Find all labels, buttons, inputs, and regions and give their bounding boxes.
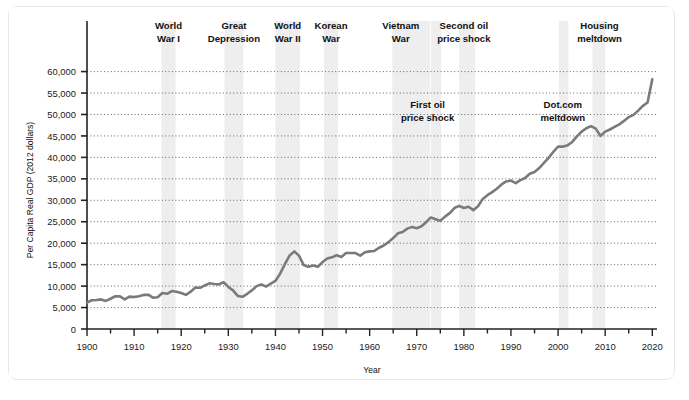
- y-tick-label: 15,000: [47, 259, 76, 270]
- recession-band: [431, 21, 441, 329]
- chart-frame: 05,00010,00015,00020,00025,00030,00035,0…: [8, 6, 675, 380]
- annotation-label: meltdown: [540, 112, 585, 123]
- annotation-label: Dot.com: [544, 99, 582, 110]
- y-tick-label: 20,000: [47, 238, 76, 249]
- recession-band: [392, 21, 430, 329]
- recession-band: [275, 21, 299, 329]
- x-tick-label: 1900: [77, 341, 98, 352]
- annotation-label: Vietnam: [382, 20, 419, 31]
- y-tick-label: 30,000: [47, 195, 76, 206]
- recession-band: [225, 21, 244, 329]
- annotation-label: War: [392, 33, 410, 44]
- y-tick-label: 25,000: [47, 216, 76, 227]
- annotation-label: World: [155, 20, 182, 31]
- x-axis-title: Year: [363, 365, 381, 375]
- y-tick-label: 40,000: [47, 152, 76, 163]
- annotation-label: War I: [157, 33, 180, 44]
- recession-band: [592, 21, 605, 329]
- x-tick-label: 1990: [501, 341, 522, 352]
- x-tick-label: 1920: [171, 341, 192, 352]
- y-tick-label: 0: [71, 324, 76, 335]
- annotation-label: Depression: [208, 33, 260, 44]
- y-tick-label: 35,000: [47, 173, 76, 184]
- annotation-label: price shock: [401, 112, 455, 123]
- x-tick-label: 2000: [548, 341, 569, 352]
- chart-background: [9, 7, 672, 377]
- y-tick-label: 55,000: [47, 88, 76, 99]
- annotation-label: Housing: [580, 20, 619, 31]
- x-tick-label: 1960: [359, 341, 380, 352]
- x-tick-label: 1940: [265, 341, 286, 352]
- annotation-label: meltdown: [577, 33, 622, 44]
- y-tick-label: 10,000: [47, 281, 76, 292]
- y-tick-label: 50,000: [47, 109, 76, 120]
- x-tick-label: 1950: [312, 341, 333, 352]
- y-axis-title: Per Capita Real GDP (2012 dollars): [25, 122, 35, 259]
- chart-page: 05,00010,00015,00020,00025,00030,00035,0…: [0, 0, 689, 400]
- x-tick-label: 1970: [406, 341, 427, 352]
- y-tick-label: 60,000: [47, 66, 76, 77]
- annotation-label: War: [322, 33, 340, 44]
- annotation-label: World: [274, 20, 301, 31]
- x-tick-label: 1980: [453, 341, 474, 352]
- annotation-label: Second oil: [440, 20, 489, 31]
- annotation-label: price shock: [437, 33, 491, 44]
- recession-band: [324, 21, 338, 329]
- recession-band: [459, 21, 475, 329]
- x-tick-label: 1910: [124, 341, 145, 352]
- annotation-label: Great: [221, 20, 247, 31]
- annotation-label: Korean: [314, 20, 347, 31]
- x-tick-label: 1930: [218, 341, 239, 352]
- x-tick-label: 2010: [595, 341, 616, 352]
- recession-band: [161, 21, 175, 329]
- gdp-line-chart: 05,00010,00015,00020,00025,00030,00035,0…: [9, 7, 672, 377]
- recession-band: [559, 21, 568, 329]
- annotation-label: First oil: [410, 99, 445, 110]
- x-tick-label: 2020: [642, 341, 663, 352]
- y-tick-label: 5,000: [53, 302, 76, 313]
- annotation-label: War II: [275, 33, 301, 44]
- y-tick-label: 45,000: [47, 131, 76, 142]
